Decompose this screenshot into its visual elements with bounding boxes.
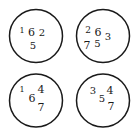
digit-label: 6: [28, 26, 35, 39]
digit-label: 7: [38, 101, 45, 114]
digit-label: 3: [90, 85, 96, 96]
digit-label: 1: [19, 85, 24, 94]
digit-label: 2: [85, 25, 91, 35]
digit-label: 7: [108, 100, 115, 113]
number-circles-diagram: 16252637514673547: [0, 0, 135, 137]
digit-label: 5: [30, 40, 36, 51]
digit-label: 6: [29, 92, 36, 105]
digit-label: 5: [94, 38, 100, 49]
background: [0, 0, 135, 137]
digit-label: 5: [99, 93, 105, 104]
digit-label: 4: [38, 83, 45, 96]
digit-label: 3: [105, 31, 111, 42]
digit-label: 1: [19, 26, 24, 35]
digit-label: 2: [39, 27, 45, 38]
digit-label: 4: [107, 84, 114, 97]
digit-label: 7: [84, 39, 91, 52]
